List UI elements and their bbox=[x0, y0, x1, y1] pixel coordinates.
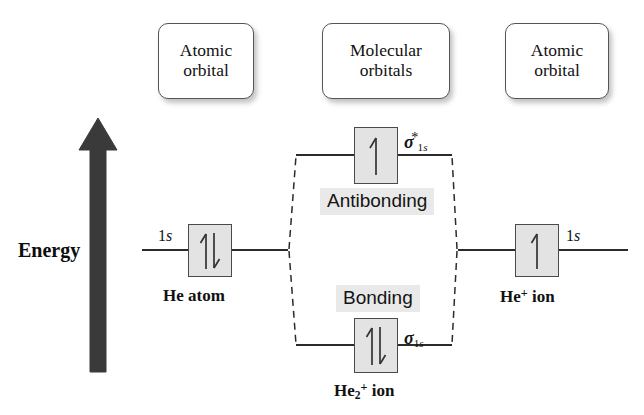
sigma-sub-s-bonding: s bbox=[419, 337, 423, 349]
he2-charge: + bbox=[361, 380, 368, 394]
orbital-box-he-atom[interactable] bbox=[188, 224, 232, 277]
orbital-box-bonding[interactable] bbox=[354, 318, 398, 373]
species-label-he2-plus-ion: He2+ ion bbox=[334, 381, 394, 401]
he-plus-symbol: He bbox=[500, 287, 521, 306]
electron-arrows-up-down-pair bbox=[361, 325, 391, 367]
sigma-subscript-bonding: 1s bbox=[414, 337, 424, 349]
callout-molecular-orbitals: Molecular orbitals bbox=[322, 23, 450, 99]
left-1s-s: s bbox=[166, 227, 172, 244]
left-1s-n: 1 bbox=[158, 227, 166, 244]
right-1s-s: s bbox=[574, 227, 580, 244]
callout-right-line1: Atomic bbox=[531, 41, 584, 61]
energy-axis-arrow bbox=[79, 118, 117, 372]
correlation-lines-dashed bbox=[289, 156, 457, 344]
callout-left-line1: Atomic bbox=[180, 41, 233, 61]
he-plus-charge: + bbox=[521, 286, 528, 300]
sigma-subscript-antibonding: 1s bbox=[418, 141, 428, 153]
electron-arrow-up-single bbox=[524, 231, 550, 271]
orbital-box-he-plus-ion[interactable] bbox=[515, 224, 559, 277]
species-label-he-atom: He atom bbox=[163, 287, 225, 304]
sigma-sub-s-antibonding: s bbox=[423, 141, 427, 153]
sigma-glyph-bonding: σ bbox=[404, 328, 414, 348]
region-label-bonding: Bonding bbox=[336, 285, 420, 312]
mo-diagram-canvas: Atomic orbital Molecular orbitals Atomic… bbox=[0, 0, 644, 415]
right-1s-n: 1 bbox=[566, 227, 574, 244]
callout-right-line2: orbital bbox=[534, 61, 580, 81]
callout-left-atomic-orbital: Atomic orbital bbox=[158, 23, 254, 99]
species-label-he-plus-ion: He+ ion bbox=[500, 287, 555, 305]
he2-suffix: ion bbox=[368, 381, 395, 400]
energy-axis-label: Energy bbox=[18, 240, 80, 260]
orbital-label-sigma-1s: σ1s bbox=[404, 329, 424, 350]
callout-mid-line2: orbitals bbox=[360, 61, 413, 81]
electron-arrow-up-single bbox=[363, 135, 389, 177]
orbital-box-antibonding[interactable] bbox=[354, 127, 398, 184]
orbital-label-1s-right: 1s bbox=[566, 228, 580, 244]
orbital-label-1s-left: 1s bbox=[158, 228, 172, 244]
callout-right-atomic-orbital: Atomic orbital bbox=[505, 23, 609, 99]
electron-arrows-up-down-pair bbox=[195, 231, 225, 271]
orbital-label-sigma-star-1s: σ*1s bbox=[404, 130, 428, 154]
he2-symbol: He bbox=[334, 381, 355, 400]
region-label-antibonding: Antibonding bbox=[320, 188, 434, 215]
callout-mid-line1: Molecular bbox=[350, 41, 422, 61]
callout-left-line2: orbital bbox=[183, 61, 229, 81]
he-plus-suffix: ion bbox=[528, 287, 555, 306]
